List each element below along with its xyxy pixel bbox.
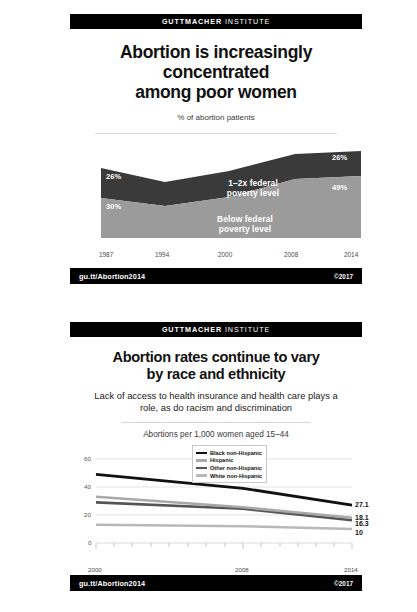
footer-link[interactable]: gu.tt/Abortion2014 bbox=[79, 272, 145, 281]
line-chart: 60 40 20 0 27.1 18.1 16.3 10 Black non-H… bbox=[70, 443, 362, 561]
band-label-mid-line1: 1–2x federal bbox=[198, 178, 308, 188]
x-axis-chart1: 1987 1994 2000 2008 2014 bbox=[70, 249, 362, 262]
chart-card-race: GUTTMACHER INSTITUTE Abortion rates cont… bbox=[70, 322, 362, 591]
y-tick-60: 60 bbox=[84, 455, 91, 462]
brand-name-bold: GUTTMACHER bbox=[162, 17, 222, 26]
legend-label-white: White non-Hispanic bbox=[210, 473, 262, 479]
y-tick-20: 20 bbox=[84, 511, 91, 518]
footer-bar-2: gu.tt/Abortion2014 ©2017 bbox=[70, 575, 362, 591]
footer-copyright-2: ©2017 bbox=[334, 580, 353, 587]
band-label-mid: 1–2x federal poverty level bbox=[198, 178, 308, 198]
footer-link-2[interactable]: gu.tt/Abortion2014 bbox=[79, 579, 145, 588]
label-left-mid: 26% bbox=[106, 172, 121, 181]
band-label-below-line1: Below federal bbox=[185, 214, 305, 224]
chart-axis-note-2: Abortions per 1,000 women aged 15–44 bbox=[70, 430, 362, 439]
x-tick-2008: 2008 bbox=[284, 251, 298, 258]
brand-name-bold-2: GUTTMACHER bbox=[162, 325, 222, 334]
x2-tick-2008: 2008 bbox=[235, 566, 249, 573]
legend: Black non-Hispanic Hispanic Other non-Hi… bbox=[192, 445, 267, 483]
legend-swatch-other bbox=[196, 467, 207, 470]
subtitle-line-1: Lack of access to health insurance and h… bbox=[70, 390, 362, 402]
legend-swatch-black bbox=[196, 452, 207, 455]
headline-line-2: concentrated bbox=[70, 62, 362, 82]
headline-line-3: among poor women bbox=[70, 82, 362, 102]
headline2-line-1: Abortion rates continue to vary bbox=[70, 349, 362, 366]
legend-label-black: Black non-Hispanic bbox=[210, 450, 262, 456]
legend-item-other[interactable]: Other non-Hispanic bbox=[196, 464, 262, 472]
legend-swatch-white bbox=[196, 474, 207, 477]
y-tick-40: 40 bbox=[84, 483, 91, 490]
band-label-mid-line2: poverty level bbox=[198, 188, 308, 198]
divider-2 bbox=[121, 422, 311, 423]
band-label-below: Below federal poverty level bbox=[185, 214, 305, 234]
x-tick-2014: 2014 bbox=[344, 251, 358, 258]
legend-label-other: Other non-Hispanic bbox=[210, 465, 262, 471]
x-tick-1994: 1994 bbox=[155, 251, 169, 258]
brand-name-light-2: INSTITUTE bbox=[225, 325, 270, 334]
x-axis-chart2: 2000 2008 2014 bbox=[70, 561, 362, 575]
subtitle: Lack of access to health insurance and h… bbox=[70, 390, 362, 413]
x2-tick-2014: 2014 bbox=[344, 566, 358, 573]
footer-copyright: ©2017 bbox=[334, 273, 353, 280]
subtitle-line-2: role, as do racism and discrimination bbox=[70, 402, 362, 414]
chart-axis-note: % of abortion patients bbox=[70, 113, 362, 122]
end-label-white: 10 bbox=[355, 529, 363, 536]
legend-swatch-hispanic bbox=[196, 459, 207, 462]
legend-item-hispanic[interactable]: Hispanic bbox=[196, 457, 262, 465]
line-white-non-hispanic bbox=[96, 525, 352, 529]
infographic-page: GUTTMACHER INSTITUTE Abortion is increas… bbox=[0, 0, 417, 612]
headline-line-1: Abortion is increasingly bbox=[70, 42, 362, 62]
divider bbox=[95, 133, 337, 134]
x-tick-2000: 2000 bbox=[218, 251, 232, 258]
label-left-bottom: 30% bbox=[106, 202, 121, 211]
legend-item-black[interactable]: Black non-Hispanic bbox=[196, 449, 262, 457]
label-right-top: 26% bbox=[332, 153, 347, 162]
stacked-area-chart: 26% 30% 26% 49% 1–2x federal poverty lev… bbox=[70, 142, 362, 247]
x-tick-1987: 1987 bbox=[99, 251, 113, 258]
brand-bar: GUTTMACHER INSTITUTE bbox=[70, 14, 362, 29]
page-title-2: Abortion rates continue to vary by race … bbox=[70, 349, 362, 383]
footer-bar: gu.tt/Abortion2014 ©2017 bbox=[70, 268, 362, 284]
chart-card-poverty: GUTTMACHER INSTITUTE Abortion is increas… bbox=[70, 14, 362, 284]
brand-name-light: INSTITUTE bbox=[225, 17, 270, 26]
label-right-mid: 49% bbox=[332, 183, 347, 192]
page-title: Abortion is increasingly concentrated am… bbox=[70, 42, 362, 102]
headline2-line-2: by race and ethnicity bbox=[70, 366, 362, 383]
legend-item-white[interactable]: White non-Hispanic bbox=[196, 472, 262, 480]
end-label-other: 16.3 bbox=[355, 520, 369, 527]
y-tick-0: 0 bbox=[88, 539, 91, 546]
end-label-black: 27.1 bbox=[355, 501, 369, 508]
brand-bar-2: GUTTMACHER INSTITUTE bbox=[70, 322, 362, 337]
legend-label-hispanic: Hispanic bbox=[210, 457, 233, 463]
band-label-below-line2: poverty level bbox=[185, 224, 305, 234]
x-axis-ticks bbox=[96, 543, 352, 549]
x2-tick-2000: 2000 bbox=[88, 566, 102, 573]
